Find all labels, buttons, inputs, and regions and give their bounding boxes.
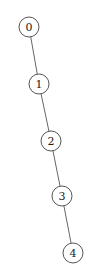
node-label: 1 bbox=[36, 78, 43, 91]
edge-2-3 bbox=[53, 151, 60, 186]
node-label: 0 bbox=[26, 21, 33, 34]
edge-0-1 bbox=[31, 37, 38, 74]
edge-3-4 bbox=[64, 206, 71, 243]
node-label: 4 bbox=[70, 247, 77, 260]
tree-diagram: 01234 bbox=[0, 0, 94, 278]
node-label: 2 bbox=[48, 135, 55, 148]
node-2: 2 bbox=[41, 131, 61, 151]
node-4: 4 bbox=[63, 243, 83, 263]
node-1: 1 bbox=[29, 74, 49, 94]
edge-1-2 bbox=[41, 94, 49, 131]
node-0: 0 bbox=[19, 17, 39, 37]
node-3: 3 bbox=[52, 186, 72, 206]
node-label: 3 bbox=[59, 190, 66, 203]
nodes: 01234 bbox=[19, 17, 83, 263]
